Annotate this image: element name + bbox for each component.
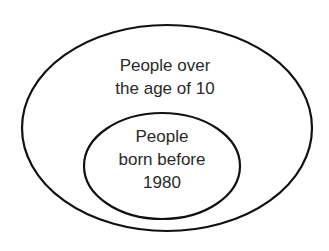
outer-label-line: the age of 10: [90, 77, 240, 100]
inner-label-line: born before: [92, 148, 232, 171]
inner-set-label: People born before 1980: [92, 125, 232, 194]
inner-label-line: People: [92, 125, 232, 148]
inner-label-line: 1980: [92, 171, 232, 194]
outer-label-line: People over: [90, 54, 240, 77]
venn-diagram: People over the age of 10 People born be…: [0, 0, 329, 251]
outer-set-label: People over the age of 10: [90, 54, 240, 100]
